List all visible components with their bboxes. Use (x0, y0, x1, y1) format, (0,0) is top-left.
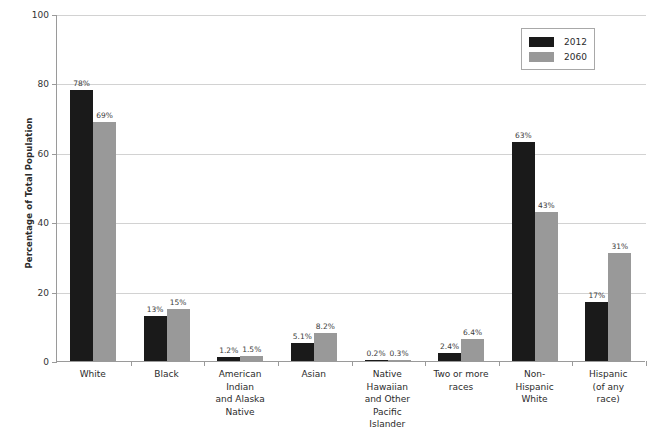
bar-group: 0.2%0.3% (352, 14, 426, 361)
x-axis-label-line: Hispanic (498, 381, 572, 394)
bar-value-label: 5.1% (293, 332, 312, 341)
bar-group: 1.2%1.5% (204, 14, 278, 361)
x-tick-mark (425, 361, 426, 366)
x-axis-label-line: Two or more (424, 368, 498, 381)
y-tick-label: 40 (38, 218, 49, 228)
bar-2012: 0.2% (365, 360, 388, 361)
bar-2060: 43% (535, 212, 558, 361)
bar-2012: 1.2% (217, 357, 240, 361)
x-axis-label: NativeHawaiianand OtherPacificIslander (351, 368, 425, 431)
x-axis-label-line: Hispanic (571, 368, 645, 381)
bar-2012: 5.1% (291, 343, 314, 361)
bar-2060: 6.4% (461, 339, 484, 361)
x-axis-label-line: races (424, 381, 498, 394)
x-axis-label: White (56, 368, 130, 381)
bar-2012: 17% (585, 302, 608, 361)
x-tick-mark (204, 361, 205, 366)
x-axis-label-line: Native (351, 368, 425, 381)
x-axis-label: Black (130, 368, 204, 381)
x-tick-mark (646, 361, 647, 366)
y-tick-label: 60 (38, 149, 49, 159)
bar-value-label: 0.2% (366, 349, 385, 358)
bar-2012: 63% (512, 142, 535, 361)
bar-value-label: 8.2% (316, 322, 335, 331)
legend-label-2060: 2060 (564, 52, 587, 62)
bar-value-label: 1.2% (219, 346, 238, 355)
bar-2060: 31% (608, 253, 631, 361)
legend-item-2012: 2012 (529, 34, 587, 49)
bar-value-label: 63% (515, 131, 532, 140)
bar-value-label: 1.5% (242, 345, 261, 354)
bar-value-label: 78% (73, 79, 90, 88)
legend-label-2012: 2012 (564, 37, 587, 47)
bar-2060: 15% (167, 309, 190, 361)
x-axis-label-line: and Other (351, 393, 425, 406)
bar-value-label: 31% (612, 242, 629, 251)
x-axis-label-line: Islander (351, 418, 425, 431)
bar-value-label: 6.4% (463, 328, 482, 337)
x-axis-label: AmericanIndianand AlaskaNative (203, 368, 277, 418)
x-axis-label-line: White (498, 393, 572, 406)
x-axis-label-line: Non- (498, 368, 572, 381)
chart-legend: 2012 2060 (521, 28, 595, 70)
bar-2012: 78% (70, 90, 93, 361)
x-tick-mark (572, 361, 573, 366)
bar-value-label: 13% (147, 305, 164, 314)
x-axis-label-line: Pacific (351, 406, 425, 419)
bar-value-label: 15% (170, 298, 187, 307)
x-axis-label-line: and Alaska (203, 393, 277, 406)
x-axis-label-line: Indian (203, 381, 277, 394)
y-tick-mark (52, 362, 57, 363)
bar-group: 13%15% (131, 14, 205, 361)
legend-swatch-2012 (529, 37, 554, 47)
x-tick-mark (131, 361, 132, 366)
x-axis-label-line: Hawaiian (351, 381, 425, 394)
bar-value-label: 0.3% (389, 349, 408, 358)
x-axis-label: Non-HispanicWhite (498, 368, 572, 406)
x-axis-label-line: Asian (277, 368, 351, 381)
bar-2060: 1.5% (240, 356, 263, 361)
x-axis-label: Two or moreraces (424, 368, 498, 393)
x-axis-label-line: American (203, 368, 277, 381)
y-tick-label: 20 (38, 288, 49, 298)
x-axis-label-line: Black (130, 368, 204, 381)
y-tick-label: 100 (32, 10, 49, 20)
bar-2012: 2.4% (438, 353, 461, 361)
legend-swatch-2060 (529, 52, 554, 62)
bar-group: 5.1%8.2% (278, 14, 352, 361)
y-tick-label: 0 (43, 357, 49, 367)
bar-2060: 8.2% (314, 333, 337, 361)
x-tick-mark (352, 361, 353, 366)
bar-2012: 13% (144, 316, 167, 361)
y-axis-title: Percentage of Total Population (24, 78, 34, 308)
y-tick-label: 80 (38, 79, 49, 89)
x-axis-label-line: race) (571, 393, 645, 406)
bar-chart: Percentage of Total Population 020406080… (0, 0, 659, 442)
bar-2060: 0.3% (388, 360, 411, 361)
bar-value-label: 69% (96, 111, 113, 120)
x-tick-mark (499, 361, 500, 366)
bar-2060: 69% (93, 122, 116, 361)
legend-item-2060: 2060 (529, 49, 587, 64)
x-axis-label-line: Native (203, 406, 277, 419)
bar-group: 2.4%6.4% (425, 14, 499, 361)
bar-group: 78%69% (57, 14, 131, 361)
x-axis-label: Hispanic(of anyrace) (571, 368, 645, 406)
x-tick-mark (278, 361, 279, 366)
x-axis-label-line: (of any (571, 381, 645, 394)
x-axis-label: Asian (277, 368, 351, 381)
x-axis-label-line: White (56, 368, 130, 381)
bar-value-label: 2.4% (440, 342, 459, 351)
bar-value-label: 17% (589, 291, 606, 300)
bar-value-label: 43% (538, 201, 555, 210)
